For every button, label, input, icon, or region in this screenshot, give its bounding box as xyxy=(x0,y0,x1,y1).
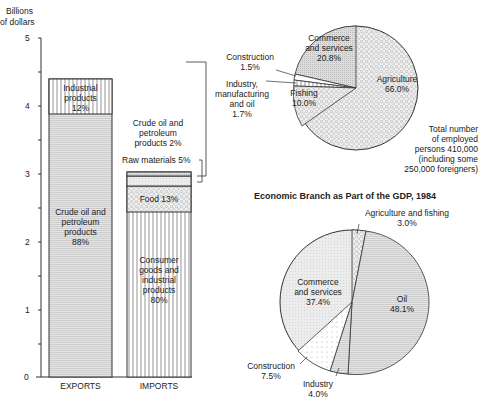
label-line: 20.8% xyxy=(302,53,356,63)
imports-oil-label: Crude oil and petroleum products 2% xyxy=(130,118,186,148)
y-tick-4: 4 xyxy=(25,101,30,111)
imports-consumer-label: Consumer goods and industrial products 8… xyxy=(127,255,191,305)
y-axis-label-line1: Billions xyxy=(6,6,33,16)
label-line: industrial xyxy=(127,275,191,285)
label-line: persons 410,000 xyxy=(404,144,478,154)
label-line: 1.5% xyxy=(222,62,278,72)
pie1-industry-label: Industry, manufacturing and oil 1.7% xyxy=(214,79,270,119)
label-line: manufacturing xyxy=(214,89,270,99)
label-line: 12% xyxy=(49,103,112,113)
label-line: Oil xyxy=(385,294,419,304)
label-line: products xyxy=(49,93,112,103)
pie2-commerce-label: Commerce and services 37.4% xyxy=(288,277,348,307)
label-line: and services xyxy=(288,287,348,297)
label-line: Industry, xyxy=(214,79,270,89)
y-tick-3: 3 xyxy=(25,169,30,179)
label-line: Commerce xyxy=(288,277,348,287)
label-line: products xyxy=(49,227,112,237)
label-line: 88% xyxy=(49,237,112,247)
y-axis-label-line2: of dollars xyxy=(0,17,35,27)
label-line: Agriculture and fishing xyxy=(352,208,462,218)
label-line: Crude oil and xyxy=(49,207,112,217)
label-line: of employed xyxy=(404,134,478,144)
pie1-commerce-label: Commerce and services 20.8% xyxy=(302,33,356,63)
label-line: Industry xyxy=(298,379,338,389)
label-line: petroleum xyxy=(49,217,112,227)
label-line: 37.4% xyxy=(288,297,348,307)
label-line: and oil xyxy=(214,99,270,109)
y-tick-0: 0 xyxy=(24,372,29,382)
pie1-note: Total number of employed persons 410,000… xyxy=(404,124,478,174)
label-line: 4.0% xyxy=(298,389,338,399)
label-line: Construction xyxy=(244,361,298,371)
label-line: Fishing xyxy=(284,88,324,98)
label-line: petroleum xyxy=(130,128,186,138)
label-line: Crude oil and xyxy=(130,118,186,128)
y-tick-1: 1 xyxy=(25,305,30,315)
label-line: 66.0% xyxy=(372,84,422,94)
label-line: 80% xyxy=(127,295,191,305)
label-line: Total number xyxy=(404,124,478,134)
exports-oil-label: Crude oil and petroleum products 88% xyxy=(49,207,112,247)
label-line: Industrial xyxy=(49,83,112,93)
imports-food-label: Food 13% xyxy=(127,194,191,204)
label-line: Commerce xyxy=(302,33,356,43)
x-label-exports: EXPORTS xyxy=(49,381,112,391)
label-line: Construction xyxy=(222,52,278,62)
pie1-agriculture-label: Agriculture 66.0% xyxy=(372,74,422,94)
y-tick-2: 2 xyxy=(25,237,30,247)
pie2-industry-label: Industry 4.0% xyxy=(298,379,338,399)
pie2-title: Economic Branch as Part of the GDP, 1984 xyxy=(254,191,436,201)
y-tick-5: 5 xyxy=(25,33,30,43)
imports-raw-materials-label: Raw materials 5% xyxy=(122,155,191,165)
label-line: 48.1% xyxy=(385,304,419,314)
label-line: and services xyxy=(302,43,356,53)
label-line: 10.0% xyxy=(284,98,324,108)
exports-industrial-label: Industrial products 12% xyxy=(49,83,112,113)
label-line: Agriculture xyxy=(372,74,422,84)
label-line: Consumer xyxy=(127,255,191,265)
pie1-construction-label: Construction 1.5% xyxy=(222,52,278,72)
label-line: products 2% xyxy=(130,138,186,148)
x-label-imports: IMPORTS xyxy=(127,381,191,391)
label-line: 7.5% xyxy=(244,371,298,381)
pie1-fishing-label: Fishing 10.0% xyxy=(284,88,324,108)
label-line: goods and xyxy=(127,265,191,275)
label-line: 3.0% xyxy=(352,218,462,228)
label-line: 250,000 foreigners) xyxy=(404,164,478,174)
label-line: 1.7% xyxy=(214,109,270,119)
label-line: (including some xyxy=(404,154,478,164)
pie2-agriculture-label: Agriculture and fishing 3.0% xyxy=(352,208,462,228)
pie2-oil-label: Oil 48.1% xyxy=(385,294,419,314)
pie2-construction-label: Construction 7.5% xyxy=(244,361,298,381)
label-line: products xyxy=(127,285,191,295)
